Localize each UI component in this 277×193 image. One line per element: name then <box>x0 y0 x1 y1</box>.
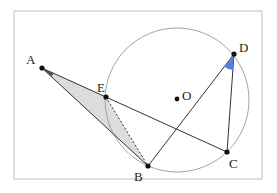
point-e <box>103 94 108 99</box>
label-o: O <box>182 88 191 103</box>
point-c <box>224 149 229 154</box>
label-a: A <box>26 52 36 67</box>
point-d <box>231 51 236 56</box>
point-b <box>145 163 150 168</box>
label-d: D <box>239 40 248 55</box>
geometry-figure: A E B C D O <box>0 0 277 193</box>
point-o <box>175 97 180 102</box>
label-e: E <box>97 80 105 95</box>
label-c: C <box>229 156 238 171</box>
point-a <box>39 65 44 70</box>
label-b: B <box>134 169 143 184</box>
